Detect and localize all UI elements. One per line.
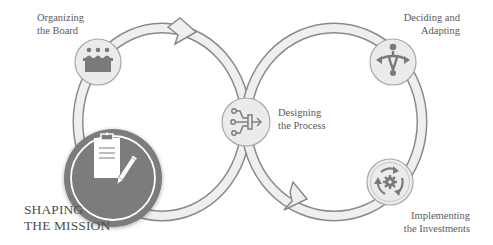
- label-line: Organizing: [37, 12, 84, 25]
- label-line: the Board: [37, 25, 84, 38]
- board-meeting-icon: [83, 48, 113, 72]
- node-organizing[interactable]: [75, 39, 121, 85]
- node-implementing[interactable]: [367, 159, 413, 205]
- label-line: the Investments: [404, 223, 470, 236]
- node-designing[interactable]: [222, 98, 270, 146]
- node-deciding[interactable]: [370, 39, 416, 85]
- label-implementing: Implementing the Investments: [404, 210, 470, 235]
- label-shaping: SHAPING THE MISSION: [24, 202, 110, 234]
- label-line: Implementing: [404, 210, 470, 223]
- label-line: the Process: [278, 120, 326, 133]
- label-line: Designing: [278, 107, 326, 120]
- label-organizing: Organizing the Board: [37, 12, 84, 37]
- label-line: Adapting: [404, 25, 460, 38]
- label-line: SHAPING: [24, 202, 110, 218]
- label-line: Deciding and: [404, 12, 460, 25]
- label-line: THE MISSION: [24, 218, 110, 234]
- label-deciding: Deciding and Adapting: [404, 12, 460, 37]
- label-designing: Designing the Process: [278, 107, 326, 132]
